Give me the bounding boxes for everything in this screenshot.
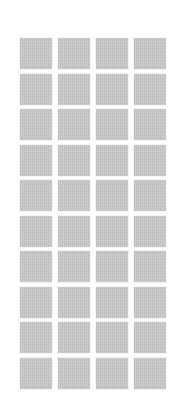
grid-tile[interactable] xyxy=(58,287,90,318)
tile-grid xyxy=(20,38,166,389)
grid-tile[interactable] xyxy=(58,145,90,176)
grid-tile[interactable] xyxy=(134,216,166,247)
grid-tile[interactable] xyxy=(96,109,128,140)
grid-tile[interactable] xyxy=(20,251,52,282)
grid-tile[interactable] xyxy=(20,322,52,353)
grid-tile[interactable] xyxy=(96,287,128,318)
grid-tile[interactable] xyxy=(96,38,128,69)
grid-tile[interactable] xyxy=(96,74,128,105)
canvas xyxy=(0,0,175,420)
grid-tile[interactable] xyxy=(134,287,166,318)
grid-tile[interactable] xyxy=(20,180,52,211)
grid-tile[interactable] xyxy=(134,145,166,176)
grid-tile[interactable] xyxy=(58,74,90,105)
grid-tile[interactable] xyxy=(134,322,166,353)
grid-tile[interactable] xyxy=(58,38,90,69)
grid-tile[interactable] xyxy=(20,216,52,247)
grid-tile[interactable] xyxy=(20,109,52,140)
grid-tile[interactable] xyxy=(134,180,166,211)
grid-tile[interactable] xyxy=(58,251,90,282)
grid-tile[interactable] xyxy=(96,322,128,353)
grid-tile[interactable] xyxy=(134,109,166,140)
grid-tile[interactable] xyxy=(134,251,166,282)
grid-tile[interactable] xyxy=(134,74,166,105)
grid-tile[interactable] xyxy=(58,109,90,140)
grid-tile[interactable] xyxy=(96,358,128,389)
grid-tile[interactable] xyxy=(20,287,52,318)
grid-tile[interactable] xyxy=(58,322,90,353)
grid-tile[interactable] xyxy=(96,251,128,282)
grid-tile[interactable] xyxy=(58,180,90,211)
grid-tile[interactable] xyxy=(20,38,52,69)
grid-tile[interactable] xyxy=(134,38,166,69)
grid-tile[interactable] xyxy=(96,216,128,247)
grid-tile[interactable] xyxy=(134,358,166,389)
grid-tile[interactable] xyxy=(58,216,90,247)
grid-tile[interactable] xyxy=(58,358,90,389)
grid-tile[interactable] xyxy=(20,145,52,176)
grid-tile[interactable] xyxy=(20,74,52,105)
grid-tile[interactable] xyxy=(96,145,128,176)
grid-tile[interactable] xyxy=(96,180,128,211)
grid-tile[interactable] xyxy=(20,358,52,389)
